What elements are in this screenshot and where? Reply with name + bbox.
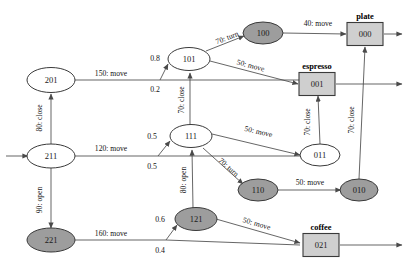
edge-201-101 xyxy=(160,64,168,80)
goal-label-espresso: espresso xyxy=(302,62,332,71)
nodes-layer: 201 211 221 101 111 121 100 110 011 010 … xyxy=(27,22,383,257)
edge-label-201-211: 80: close xyxy=(35,104,44,132)
prob-label-211-111: 0.5 xyxy=(147,132,157,141)
edge-121-111 xyxy=(192,150,193,208)
node-110-label: 110 xyxy=(252,185,264,195)
diagram-canvas: 201 211 221 101 111 121 100 110 011 010 … xyxy=(0,0,408,268)
edge-100-000 xyxy=(283,33,346,34)
goal-label-plate: plate xyxy=(356,12,374,21)
edge-221-121 xyxy=(166,225,177,240)
edge-010-000 xyxy=(359,47,365,179)
node-121-label: 121 xyxy=(190,214,203,224)
edge-label-011-001: 70: close xyxy=(303,108,312,136)
prob-label-201-101: 0.8 xyxy=(150,54,160,63)
edge-label-211-split: 120: move xyxy=(95,144,128,153)
node-111-label: 111 xyxy=(185,131,197,141)
node-221-label: 221 xyxy=(45,235,58,245)
edge-label-110-010: 50: move xyxy=(296,178,325,187)
node-010-label: 010 xyxy=(353,185,366,195)
node-100-label: 100 xyxy=(257,28,270,38)
node-101-label: 101 xyxy=(183,54,196,64)
node-021-label: 021 xyxy=(315,240,328,250)
edge-label-111-110: 70: turn xyxy=(217,156,241,179)
node-000-label: 000 xyxy=(359,29,372,39)
prob-label-201-111: 0.2 xyxy=(150,85,160,94)
edge-211-111 xyxy=(158,141,170,156)
probability-labels-layer: 0.8 0.2 0.5 0.5 0.6 0.4 xyxy=(147,54,165,255)
edge-label-111-101: 70: close xyxy=(177,86,186,114)
edge-221-through xyxy=(166,240,300,245)
prob-label-211-121: 0.5 xyxy=(147,162,157,171)
state-transition-graph: 201 211 221 101 111 121 100 110 011 010 … xyxy=(0,0,408,268)
edge-111-011 xyxy=(212,134,300,155)
edge-label-121-021: 50: move xyxy=(242,215,272,232)
edge-label-201-split: 150: move xyxy=(95,69,128,78)
edge-label-101-100: 70: turn xyxy=(214,29,240,46)
prob-label-221-121: 0.6 xyxy=(155,215,165,224)
edge-label-100-000: 40: move xyxy=(304,19,333,28)
edge-011-001 xyxy=(318,96,320,144)
prob-label-221-021: 0.4 xyxy=(155,246,165,255)
node-011-label: 011 xyxy=(314,150,326,160)
goal-label-coffee: coffee xyxy=(311,223,332,232)
edge-label-121-111: 80: open xyxy=(179,167,188,194)
edge-label-111-011: 50: move xyxy=(244,124,274,139)
edge-label-010-000: 70: close xyxy=(347,106,356,134)
edge-label-211-221: 90: open xyxy=(35,187,44,214)
node-201-label: 201 xyxy=(45,75,58,85)
node-211-label: 211 xyxy=(45,151,57,161)
edge-label-221-split: 160: move xyxy=(95,229,128,238)
node-001-label: 001 xyxy=(311,79,324,89)
